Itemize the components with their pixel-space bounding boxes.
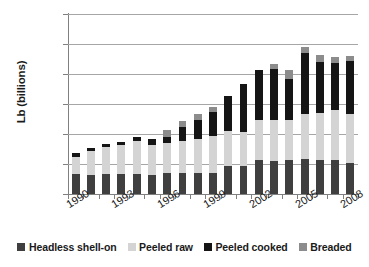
bar-segment[interactable] [224, 96, 232, 131]
bar-segment[interactable] [285, 120, 293, 160]
legend-swatch-icon [128, 243, 136, 251]
bar-group[interactable] [163, 14, 171, 194]
legend-swatch-icon [17, 243, 25, 251]
x-tick-mark [236, 195, 237, 199]
bar-segment[interactable] [346, 61, 354, 114]
bar-group[interactable] [224, 14, 232, 194]
bar-segment[interactable] [209, 136, 217, 173]
bar-segment[interactable] [255, 160, 263, 194]
bar-segment[interactable] [331, 63, 339, 110]
bar-group[interactable] [316, 14, 324, 194]
bar-group[interactable] [301, 14, 309, 194]
bar-segment[interactable] [102, 147, 110, 175]
bar-segment[interactable] [179, 141, 187, 173]
bar-segment[interactable] [346, 56, 354, 61]
bar-group[interactable] [87, 14, 95, 194]
legend-item[interactable]: Peeled raw [128, 241, 193, 253]
legend-label: Peeled cooked [215, 241, 287, 253]
bar-segment[interactable] [102, 174, 110, 194]
bar-segment[interactable] [72, 157, 80, 174]
bar-segment[interactable] [301, 47, 309, 53]
bar-segment[interactable] [255, 120, 263, 160]
bar-segment[interactable] [194, 173, 202, 194]
bar-segment[interactable] [163, 130, 171, 137]
legend-item[interactable]: Peeled cooked [204, 241, 288, 253]
bar-segment[interactable] [301, 159, 309, 194]
bar-segment[interactable] [194, 120, 202, 140]
bar-segment[interactable] [270, 64, 278, 68]
bar-group[interactable] [148, 14, 156, 194]
legend-swatch-icon [299, 243, 307, 251]
bar-group[interactable] [179, 14, 187, 194]
legend-swatch-icon [204, 243, 212, 251]
bar-group[interactable] [270, 14, 278, 194]
bar-segment[interactable] [148, 139, 156, 145]
bar-segment[interactable] [316, 113, 324, 160]
bars-layer [68, 14, 358, 194]
bar-segment[interactable] [117, 145, 125, 173]
bar-segment[interactable] [270, 69, 278, 120]
x-tick-mark [327, 195, 328, 199]
bar-segment[interactable] [224, 131, 232, 166]
bar-group[interactable] [255, 14, 263, 194]
bar-segment[interactable] [133, 174, 141, 194]
bar-segment[interactable] [331, 57, 339, 63]
bar-segment[interactable] [72, 153, 80, 157]
bar-group[interactable] [72, 14, 80, 194]
bar-segment[interactable] [102, 144, 110, 147]
bar-segment[interactable] [240, 84, 248, 132]
bar-segment[interactable] [163, 137, 171, 143]
bar-group[interactable] [102, 14, 110, 194]
bar-segment[interactable] [285, 70, 293, 78]
bar-group[interactable] [331, 14, 339, 194]
bar-segment[interactable] [87, 148, 95, 151]
bar-segment[interactable] [285, 79, 293, 120]
bar-segment[interactable] [316, 55, 324, 62]
bar-segment[interactable] [240, 132, 248, 166]
bar-group[interactable] [209, 14, 217, 194]
bar-segment[interactable] [179, 173, 187, 194]
bar-segment[interactable] [301, 114, 309, 158]
bar-segment[interactable] [301, 53, 309, 114]
bar-group[interactable] [240, 14, 248, 194]
bar-segment[interactable] [209, 107, 217, 112]
bar-group[interactable] [346, 14, 354, 194]
bar-segment[interactable] [87, 151, 95, 176]
legend-item[interactable]: Headless shell-on [17, 241, 116, 253]
bar-segment[interactable] [87, 175, 95, 194]
x-tick-mark [282, 195, 283, 199]
legend-item[interactable]: Breaded [299, 241, 352, 253]
legend-label: Peeled raw [139, 241, 193, 253]
bar-segment[interactable] [194, 139, 202, 173]
x-tick-mark [144, 195, 145, 199]
bar-segment[interactable] [316, 62, 324, 113]
bar-segment[interactable] [346, 114, 354, 163]
bar-segment[interactable] [209, 112, 217, 137]
bar-segment[interactable] [224, 166, 232, 194]
bar-segment[interactable] [179, 121, 187, 128]
bar-segment[interactable] [179, 127, 187, 140]
bar-segment[interactable] [163, 143, 171, 173]
bar-segment[interactable] [117, 142, 125, 146]
bar-group[interactable] [194, 14, 202, 194]
bar-segment[interactable] [285, 160, 293, 194]
bar-segment[interactable] [316, 160, 324, 194]
bar-segment[interactable] [133, 141, 141, 173]
bar-segment[interactable] [148, 175, 156, 194]
bar-segment[interactable] [255, 70, 263, 120]
bar-segment[interactable] [133, 137, 141, 141]
legend-label: Headless shell-on [29, 241, 117, 253]
bar-segment[interactable] [194, 114, 202, 119]
legend-label: Breaded [310, 241, 351, 253]
bar-group[interactable] [133, 14, 141, 194]
bar-segment[interactable] [270, 161, 278, 194]
bar-segment[interactable] [270, 120, 278, 161]
bar-segment[interactable] [148, 145, 156, 175]
bar-group[interactable] [285, 14, 293, 194]
x-tick-mark [99, 195, 100, 199]
stacked-bar-chart: Lb (billions) 00.511.522.53 199019931996… [0, 0, 369, 267]
bar-group[interactable] [117, 14, 125, 194]
bar-segment[interactable] [240, 166, 248, 194]
bar-segment[interactable] [331, 160, 339, 194]
bar-segment[interactable] [331, 110, 339, 160]
